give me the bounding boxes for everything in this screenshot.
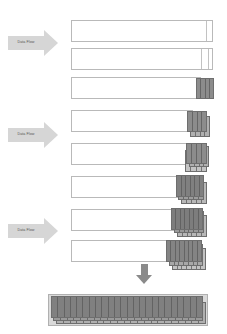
block-stripe: [199, 209, 202, 229]
stack-block-7-3: [171, 208, 203, 230]
block-stripe: [202, 144, 206, 163]
block-stripes: [172, 209, 202, 229]
block-stripes: [167, 241, 201, 261]
block-stripe: [202, 112, 206, 131]
stack-block-final-3: [51, 296, 203, 318]
block-stripes: [52, 297, 202, 317]
stack-block-4-2: [187, 111, 207, 132]
block-stripe: [210, 79, 213, 98]
block-stripe: [198, 241, 201, 261]
stack-block-6-3: [176, 175, 204, 197]
block-stripes: [187, 144, 206, 163]
stack-block-5-3: [186, 143, 207, 164]
stack-block-3-1: [196, 78, 214, 99]
block-stripes: [188, 112, 206, 131]
block-stripes: [177, 176, 203, 196]
block-stripe: [197, 297, 202, 317]
diagram-canvas: Data FlowData FlowData Flow: [0, 0, 227, 334]
block-stripe: [200, 176, 204, 196]
block-stripes: [197, 79, 213, 98]
stack-block-8-3: [166, 240, 202, 262]
